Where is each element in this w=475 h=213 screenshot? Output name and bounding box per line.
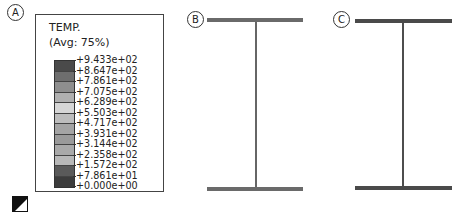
- view-orientation-icon: [12, 196, 28, 212]
- colorbar-segment: [55, 114, 74, 125]
- legend-title: TEMP.: [49, 20, 110, 35]
- legend-subtitle: (Avg: 75%): [49, 35, 110, 50]
- colorbar-segment: [55, 93, 74, 104]
- triangle-split-icon: [13, 197, 28, 212]
- colorbar-segment: [55, 156, 74, 167]
- colorbar-segment: [55, 61, 74, 72]
- colorbar-segment: [55, 135, 74, 146]
- legend-title-block: TEMP. (Avg: 75%): [49, 20, 110, 50]
- beam-c-bottom-flange: [355, 186, 452, 190]
- colorbar-segment: [55, 124, 74, 135]
- colorbar-segment: [55, 72, 74, 83]
- beam-b-bottom-flange: [207, 187, 303, 191]
- colorbar-segment: [55, 82, 74, 93]
- colorbar-segment: [55, 177, 74, 188]
- colorbar: [54, 60, 75, 188]
- temperature-legend: TEMP. (Avg: 75%) +9.433e+02+8.647e+02+7.…: [35, 14, 164, 192]
- colorbar-segment: [55, 145, 74, 156]
- panel-label-b: B: [187, 11, 204, 28]
- beam-c-web: [402, 23, 404, 186]
- colorbar-tick-label: +0.000e+00: [73, 180, 138, 192]
- colorbar-segment: [55, 166, 74, 177]
- colorbar-segment: [55, 103, 74, 114]
- panel-label-a: A: [7, 4, 24, 21]
- panel-label-c: C: [333, 11, 350, 28]
- beam-b-web: [255, 22, 257, 187]
